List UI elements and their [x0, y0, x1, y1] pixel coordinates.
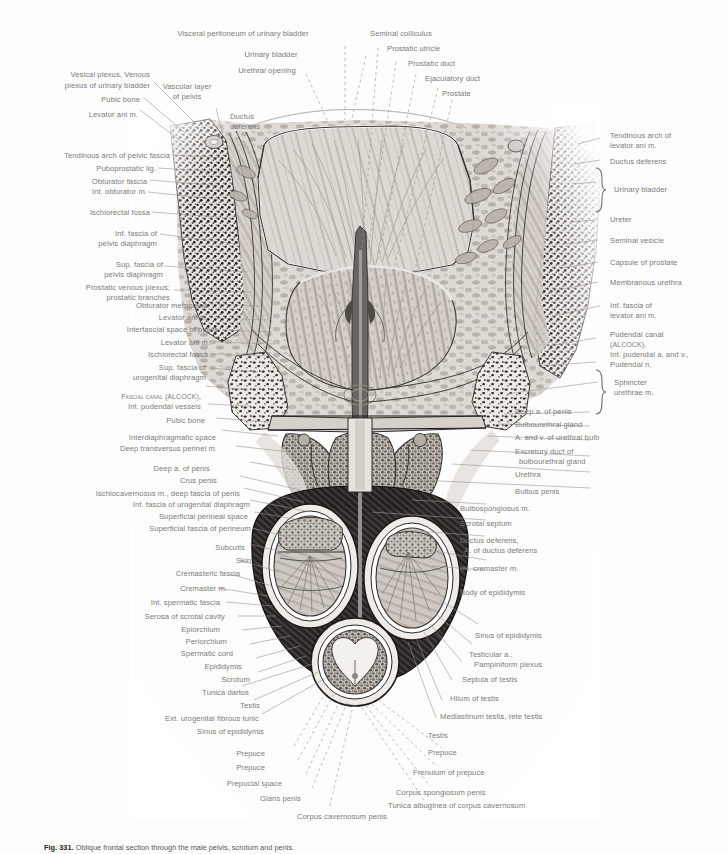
label-excretory-duct-1: Excretory duct of — [515, 447, 573, 456]
label-scrotal-septum: Scrotal septum — [460, 519, 512, 528]
label-ischiorectal-fossa-upper: Ischiorectal fossa — [5, 208, 150, 217]
label-tendinous-arch-pelvic-fascia: Tendinous arch of pelvic fascia — [5, 151, 170, 160]
label-corpus-spongiosum-penis: Corpus spongiosum penis — [396, 788, 486, 797]
label-tunica-dartos: Tunica dartos — [5, 688, 249, 697]
label-sinus-epididymis-right: Sinus of epididymis — [475, 631, 542, 640]
label-ejaculatory-duct: Ejaculatory duct — [425, 74, 480, 83]
label-pubic-bone-lower: Pubic bone — [5, 416, 205, 425]
label-prepucial-space: Prepucial space — [5, 779, 282, 788]
label-sup-fascia-urogenital-2: urogenital diaphragm — [5, 373, 206, 382]
label-tendinous-arch-levator-2: levator ani m. — [610, 141, 657, 150]
label-epiorchium: Epiorchium — [5, 625, 220, 634]
label-periorchium: Periorchium — [5, 637, 227, 646]
label-int-cremaster-m: Int. cremaster m. — [460, 564, 518, 573]
label-vesical-plexus-1: Vesical plexus, Venous — [10, 70, 150, 79]
label-tunica-albuginea: Tunica albuginea of corpus cavernosum — [388, 801, 525, 810]
label-prostatic-utricle: Prostatic utricle — [387, 44, 440, 53]
label-superficial-fascia-perineum: Superficial fascia of perineum — [5, 524, 251, 533]
label-inf-fascia-pelvis-2: pelvis diaphragm — [5, 239, 157, 248]
label-cremaster-m: Cremaster m. — [5, 584, 227, 593]
label-int-spermatic-fascia: Int. spermatic fascia — [5, 598, 220, 607]
figure-caption-text: Oblique frontal section through the male… — [76, 843, 295, 852]
label-urinary-bladder-right: Urinary bladder — [614, 185, 667, 194]
label-serosa-scrotal-cavity: Serosa of scrotal cavity — [5, 612, 225, 621]
label-subcutis: Subcutis — [5, 543, 245, 552]
label-int-pudendal-vessels: Int. pudendal vessels — [5, 402, 201, 411]
label-excretory-duct-2: bulbourethral gland — [519, 457, 586, 466]
anatomical-plate: Visceral peritoneum of urinary bladder U… — [0, 0, 727, 854]
anatomy-illustration — [0, 0, 727, 854]
label-prostatic-venous-plexus-1: Prostatic venous plexus; — [5, 283, 170, 292]
label-sphincter-1: Sphincter — [614, 378, 647, 387]
label-prepuce-left-1: Prepuce — [5, 749, 265, 758]
label-sup-fascia-urogenital-1: Sup. fascia of — [5, 363, 206, 372]
label-urethra: Urethra — [515, 470, 541, 479]
label-puboprostatic-lig: Puboprostatic lig. — [5, 164, 156, 173]
label-pudendal-canal: Pudendal canal — [610, 330, 663, 339]
label-prepuce-left-2: Prepuce — [5, 763, 265, 772]
label-obturator-membrane: Obturator membrane — [5, 301, 208, 310]
label-corpus-cavernosum-penis: Corpus cavernosum penis — [5, 812, 387, 821]
label-prostatic-duct: Prostatic duct — [408, 59, 455, 68]
label-interdiaphragmatic-space: Interdiaphragmatic space — [5, 433, 216, 442]
label-testicular-a: Testicular a., — [469, 650, 513, 659]
label-deep-a-penis-left: Deep a. of penis — [5, 464, 210, 473]
label-epididymis: Epididymis — [5, 662, 242, 671]
label-obturator-fascia: Obturator fascia — [5, 177, 147, 186]
label-inf-fascia-pelvis-1: Inf. fascia of — [5, 229, 157, 238]
label-bulbourethral-gland: Bulbourethral gland — [515, 420, 582, 429]
figure-caption: Fig. 331. Oblique frontal section throug… — [44, 843, 684, 852]
label-a-ductus-deferens: A. of ductus deferens — [464, 546, 537, 555]
label-hilum-of-testis: Hilum of testis — [450, 694, 499, 703]
label-vascular-layer-2: of pelvis — [148, 92, 226, 101]
label-levator-ani-m-2: Levator ani m. — [5, 313, 208, 322]
label-urethral-opening: Urethral opening — [186, 66, 348, 75]
label-inf-fascia-levator-1: Inf. fascia of — [610, 301, 652, 310]
label-interfascial-space: Interfascial space of pelvis — [5, 325, 218, 334]
label-frenulum-of-prepuce: Frenulum of prepuce — [413, 768, 485, 777]
label-ischiocavernosus-m: Ischiocavernosus m., deep fascia of peni… — [5, 489, 240, 498]
label-pampiniform-plexus: Pampiniform plexus — [474, 660, 542, 669]
label-cremasteric-fascia: Cremasteric fascia — [5, 569, 240, 578]
label-scrotum: Scrotum — [5, 675, 250, 684]
label-sup-fascia-pelvis-1: Sup. fascia of — [5, 260, 163, 269]
label-fascial-canal-alcock: Fascial canal (ALCOCK), — [5, 392, 201, 401]
label-a-v-urethral-bulb: A. and v. of urethral bulb — [515, 433, 599, 442]
label-int-pudendal-a-v: Int. pudendal a. and v., — [610, 350, 689, 359]
label-bulbospongiosus-m: Bulbospongiosus m. — [460, 504, 530, 513]
label-testis-left: Testis — [5, 701, 260, 710]
label-body-of-epididymis: Body of epididymis — [460, 588, 525, 597]
label-membranous-urethra: Membranous urethra — [610, 278, 682, 287]
label-levator-ani-m-3: Levator ani m. — [5, 338, 210, 347]
label-sinus-epididymis-left: Sinus of epididymis — [5, 727, 264, 736]
label-prostate: Prostate — [442, 89, 471, 98]
label-pudendal-n: Pudendal n. — [610, 360, 651, 369]
label-alcock: (ALCOCK), — [610, 340, 646, 349]
label-vesical-plexus-2: plexus of urinary bladder — [10, 81, 150, 90]
label-vascular-layer-1: Vascular layer — [148, 82, 226, 91]
label-mediastinum-testis: Mediastinum testis, rete testis — [440, 712, 543, 721]
label-deep-a-penis-right: Deep a. of penis — [515, 407, 572, 416]
label-pubic-bone-upper: Pubic bone — [10, 95, 140, 104]
label-seminal-colliculus: Seminal colliculus — [370, 29, 432, 38]
label-prepuce-right: Prepuce — [428, 748, 457, 757]
label-inf-fascia-levator-2: levator ani m. — [610, 311, 657, 320]
label-sup-fascia-pelvis-2: pelvis diaphragm — [5, 270, 163, 279]
label-septula-of-testis: Septula of testis — [462, 675, 517, 684]
label-testis-right: Testis — [428, 731, 448, 740]
label-glans-penis: Glans penis — [5, 794, 301, 803]
label-ductus-deferens-1: Ductus — [230, 112, 254, 121]
label-bulbus-penis: Bulbus penis — [515, 487, 559, 496]
label-ureter: Ureter — [610, 215, 632, 224]
label-ductus-deferens-lower: Ductus deferens, — [460, 536, 519, 545]
label-urinary-bladder-top: Urinary bladder — [190, 50, 352, 59]
label-seminal-vesicle: Seminal vesicle — [610, 236, 664, 245]
label-ductus-deferens-2: deferens — [230, 122, 260, 131]
label-spermatic-cord: Spermatic cord — [5, 649, 233, 658]
label-ischiorectal-fossa-lower: Ischiorectal fossa — [5, 350, 208, 359]
label-capsule-of-prostate: Capsule of prostate — [610, 258, 677, 267]
label-levator-ani-upper: Levator ani m. — [10, 110, 138, 119]
label-tendinous-arch-levator-1: Tendinous arch of — [610, 131, 671, 140]
label-int-obturator-m: Int. obturator m. — [5, 187, 147, 196]
label-sphincter-2: urethrae m. — [614, 388, 654, 397]
